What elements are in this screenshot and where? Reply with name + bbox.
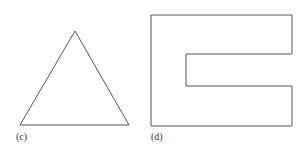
triangle-shape (20, 31, 129, 125)
e-shape (151, 15, 292, 126)
figure-label-c: (c) (16, 131, 27, 142)
figure-label-d: (d) (151, 131, 163, 142)
